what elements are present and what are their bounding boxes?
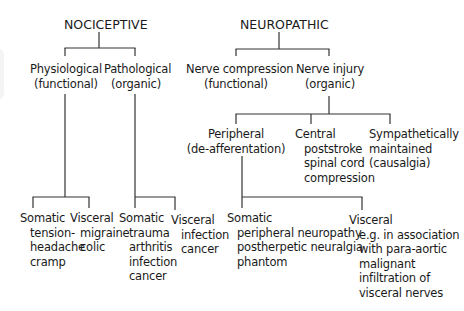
sympathetic-label: Sympathetically — [369, 127, 459, 142]
central-node: Central poststroke spinal cord compressi… — [295, 127, 375, 185]
somatic-item: cramp — [20, 255, 85, 270]
pathological-sub: (organic) — [104, 77, 168, 92]
visceral-item: e.g. in association — [349, 228, 459, 243]
central-item: compression — [295, 171, 375, 186]
peripheral-visceral-node: Visceral e.g. in association with para-a… — [349, 213, 459, 300]
somatic-label: Somatic — [227, 211, 363, 226]
somatic-item: phantom — [227, 255, 363, 270]
sympathetic-node: Sympathetically maintained (causalgia) — [369, 127, 459, 171]
somatic-item: postherpetic neuralgia — [227, 240, 363, 255]
visceral-item: infiltration of — [349, 271, 459, 286]
visceral-item: malignant — [349, 257, 459, 272]
visceral-item: cancer — [171, 242, 229, 257]
compression-sub: (functional) — [186, 77, 286, 92]
somatic-item: trauma — [119, 226, 177, 241]
central-label: Central — [295, 127, 375, 142]
physiological-sub: (functional) — [30, 77, 102, 92]
compression-label: Nerve compression — [186, 62, 286, 77]
pathological-somatic-node: Somatic trauma arthritis infection cance… — [119, 211, 177, 284]
visceral-label: Visceral — [349, 213, 459, 228]
nociceptive-title: NOCICEPTIVE — [64, 18, 148, 33]
peripheral-somatic-node: Somatic peripheral neuropathy postherpet… — [227, 211, 363, 269]
central-item: poststroke — [295, 142, 375, 157]
peripheral-sub: (de-afferentation) — [186, 142, 286, 157]
nerve-injury-node: Nerve injury (organic) — [294, 62, 366, 91]
somatic-item: arthritis — [119, 240, 177, 255]
somatic-item: peripheral neuropathy — [227, 226, 363, 241]
pathological-visceral-node: Visceral infection cancer — [171, 213, 229, 257]
physiological-label: Physiological — [30, 62, 102, 77]
visceral-label: Visceral — [171, 213, 229, 228]
nerve-injury-label: Nerve injury — [294, 62, 366, 77]
pathological-node: Pathological (organic) — [104, 62, 168, 91]
pathological-label: Pathological — [104, 62, 168, 77]
sympathetic-item: maintained — [369, 142, 459, 157]
physiological-node: Physiological (functional) — [30, 62, 102, 91]
somatic-item: infection — [119, 255, 177, 270]
visceral-item: infection — [171, 228, 229, 243]
visceral-item: with para-aortic — [349, 242, 459, 257]
nerve-injury-sub: (organic) — [294, 77, 366, 92]
visceral-item: visceral nerves — [349, 286, 459, 301]
peripheral-node: Peripheral (de-afferentation) — [186, 127, 286, 156]
sympathetic-item: (causalgia) — [369, 156, 459, 171]
somatic-item: cancer — [119, 269, 177, 284]
neuropathic-title: NEUROPATHIC — [240, 18, 329, 33]
somatic-label: Somatic — [119, 211, 177, 226]
peripheral-label: Peripheral — [186, 127, 286, 142]
central-item: spinal cord — [295, 156, 375, 171]
compression-node: Nerve compression (functional) — [186, 62, 286, 91]
